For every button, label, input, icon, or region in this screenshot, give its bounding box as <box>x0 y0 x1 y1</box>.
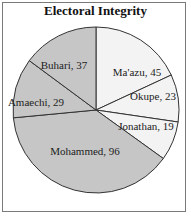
slice-label: Amaechi, 29 <box>8 96 65 108</box>
pie-slices <box>13 27 179 193</box>
slice-label: Buhari, 37 <box>41 59 88 71</box>
slice-label: Mohammed, 96 <box>50 145 120 157</box>
slice-label: Ma'azu, 45 <box>113 66 162 78</box>
slice-label: Jonathan, 19 <box>118 120 174 132</box>
slice-label: Okupe, 23 <box>130 90 176 102</box>
pie-chart: Ma'azu, 45Okupe, 23Jonathan, 19Mohammed,… <box>0 0 191 216</box>
